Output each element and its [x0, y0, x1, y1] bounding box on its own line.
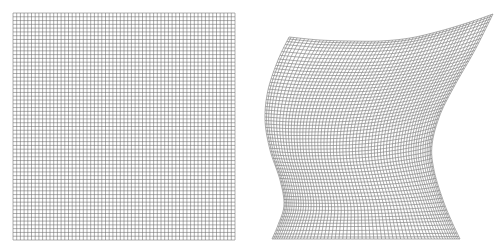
grid-lines [13, 13, 235, 240]
original-grid-panel [0, 0, 252, 252]
warped-grid-mesh [252, 0, 504, 252]
warped-grid-lines [265, 14, 493, 239]
regular-grid-mesh [0, 0, 252, 252]
warped-grid-panel [252, 0, 504, 252]
